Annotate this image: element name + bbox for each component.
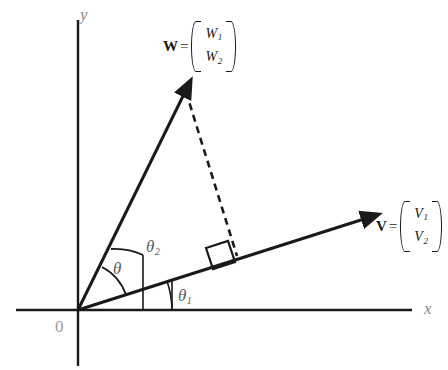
vector-w-matrix: W1 W2 xyxy=(191,20,236,73)
vector-w-rows: W1 W2 xyxy=(200,20,227,73)
vector-w-label: W = W1 W2 xyxy=(163,20,236,73)
origin-label: 0 xyxy=(55,318,64,335)
theta2-subscript: 2 xyxy=(155,246,160,257)
vector-w-component-2: W2 xyxy=(203,46,224,69)
vector-w-equals: = xyxy=(180,39,188,54)
matrix-paren-right xyxy=(228,20,236,73)
vector-v-label: V = V1 V2 xyxy=(376,200,442,253)
matrix-paren-left xyxy=(191,20,199,73)
theta-label: θ xyxy=(113,260,121,277)
matrix-paren-left xyxy=(400,200,408,253)
theta2-arc xyxy=(111,249,143,255)
y-axis-label: y xyxy=(80,6,88,23)
vector-v-equals: = xyxy=(389,219,397,234)
theta1-subscript: 1 xyxy=(187,295,192,306)
vector-w-arrow xyxy=(78,94,184,310)
vector-v-matrix: V1 V2 xyxy=(400,200,442,253)
theta1-label: θ1 xyxy=(178,287,192,306)
x-axis-label: x xyxy=(424,300,432,317)
vector-w-name: W xyxy=(163,39,178,54)
vector-v-rows: V1 V2 xyxy=(409,200,433,253)
theta2-symbol: θ xyxy=(146,237,154,256)
vector-v-component-1: V1 xyxy=(412,203,430,226)
figure-canvas: y x 0 θ θ2 θ1 W = W1 W2 V = V1 V xyxy=(0,0,448,370)
theta2-label: θ2 xyxy=(146,238,160,257)
matrix-paren-right xyxy=(434,200,442,253)
vector-w-component-1: W1 xyxy=(203,23,224,46)
vector-v-name: V xyxy=(376,219,387,234)
vector-v-component-2: V2 xyxy=(412,226,430,249)
projection-dashed-line xyxy=(186,92,237,256)
theta1-symbol: θ xyxy=(178,286,186,305)
